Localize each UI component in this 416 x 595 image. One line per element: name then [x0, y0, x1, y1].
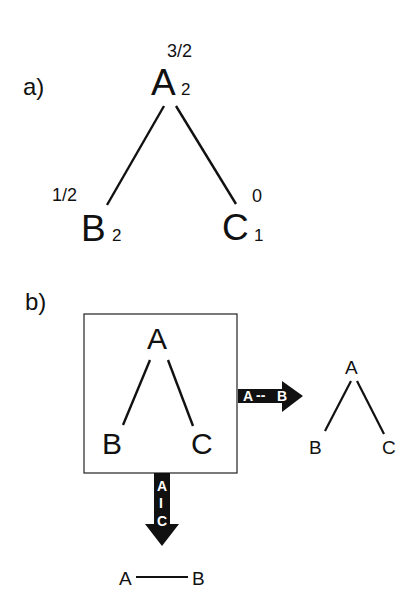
node-a-A-weight: 3/2: [167, 42, 192, 60]
edge-box-A-B: [123, 360, 150, 425]
arrow-down-label-top: A: [157, 478, 167, 494]
edge-right-A-B: [325, 381, 351, 431]
right-tree-node-A: A: [345, 358, 358, 377]
result-node-B: B: [192, 569, 205, 588]
arrow-right-label-sep: --: [256, 387, 266, 403]
arrow-right-label-right: B: [277, 388, 287, 404]
node-a-A-subscript: 2: [181, 81, 190, 98]
edge-a-A-C: [176, 106, 236, 204]
edge-right-A-C: [357, 381, 384, 434]
node-a-B-weight: 1/2: [52, 186, 77, 204]
right-tree-node-C: C: [382, 438, 396, 457]
arrow-down-label-sep: I: [159, 495, 163, 511]
node-a-B-subscript: 2: [112, 227, 121, 244]
arrow-right-label-left: A: [243, 388, 253, 404]
arrow-down: A I C: [145, 473, 179, 546]
arrow-right: A -- B: [238, 381, 303, 412]
node-a-C-subscript: 1: [254, 227, 263, 244]
edge-box-A-C: [168, 360, 193, 426]
arrow-down-label-bottom: C: [157, 513, 167, 529]
box-node-B: B: [102, 429, 122, 459]
diagram-canvas: A -- B A I C: [0, 0, 416, 595]
result-node-A: A: [119, 569, 132, 588]
edge-a-A-B: [107, 106, 164, 205]
panel-b-label: b): [25, 290, 46, 314]
box-node-A: A: [147, 324, 167, 354]
node-a-C-weight: 0: [252, 187, 262, 205]
node-a-C: C: [222, 209, 249, 246]
panel-a-label: a): [23, 75, 44, 99]
node-a-B: B: [81, 210, 106, 247]
right-tree-node-B: B: [309, 438, 322, 457]
box-node-C: C: [191, 429, 213, 459]
node-a-A: A: [151, 64, 176, 101]
